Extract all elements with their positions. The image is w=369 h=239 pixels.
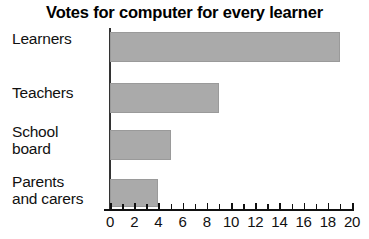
category-label-teachers-line-1: Teachers [12, 84, 115, 101]
bar-row [110, 130, 171, 160]
plot-area [110, 28, 352, 209]
x-axis-tick-major [110, 203, 112, 209]
x-axis-tick-minor [267, 204, 269, 209]
category-label-parents-and-carers-line-2: and carers [12, 190, 115, 207]
x-axis-tick-label: 20 [344, 213, 360, 230]
x-axis-tick-major [352, 203, 354, 209]
x-axis-tick-label: 6 [179, 213, 187, 230]
x-axis-tick-minor [195, 204, 197, 209]
x-axis-tick-major [279, 203, 281, 209]
x-axis-tick-label: 14 [271, 213, 287, 230]
bar-row [110, 32, 340, 62]
category-label-school-board: School board [12, 123, 115, 157]
x-axis-tick-minor [292, 204, 294, 209]
x-axis-tick-major [231, 203, 233, 209]
x-axis-tick-label: 8 [203, 213, 211, 230]
x-axis-tick-major [158, 203, 160, 209]
x-axis-tick-minor [146, 204, 148, 209]
bar-learners [110, 32, 340, 62]
x-axis-tick-label: 10 [223, 213, 239, 230]
bar-school-board [110, 130, 171, 160]
x-axis-tick-minor [171, 204, 173, 209]
x-axis-tick-major [255, 203, 257, 209]
bar-row [110, 83, 219, 113]
category-label-teachers: Teachers [12, 84, 115, 101]
x-axis-tick-minor [340, 204, 342, 209]
x-axis-tick-major [328, 203, 330, 209]
x-axis-tick-minor [219, 204, 221, 209]
category-label-learners-line-1: Learners [12, 30, 115, 47]
x-axis-tick-label: 18 [320, 213, 336, 230]
chart-title: Votes for computer for every learner [0, 2, 369, 22]
x-axis-tick-major [134, 203, 136, 209]
category-label-parents-and-carers-line-1: Parents [12, 173, 115, 190]
category-label-school-board-line-2: board [12, 140, 115, 157]
x-axis-tick-minor [243, 204, 245, 209]
category-label-school-board-line-1: School [12, 123, 115, 140]
x-axis-tick-label: 2 [130, 213, 138, 230]
category-label-learners: Learners [12, 30, 115, 47]
x-axis-tick-label: 16 [296, 213, 312, 230]
x-axis-tick-label: 0 [106, 213, 114, 230]
x-axis-tick-major [207, 203, 209, 209]
x-axis-tick-minor [122, 204, 124, 209]
category-label-parents-and-carers: Parents and carers [12, 173, 115, 207]
bar-teachers [110, 83, 219, 113]
x-axis-tick-label: 12 [247, 213, 263, 230]
bar-chart-figure: Votes for computer for every learner Lea… [0, 0, 369, 239]
x-axis-tick-major [183, 203, 185, 209]
x-axis-tick-major [304, 203, 306, 209]
x-axis-tick-label: 4 [154, 213, 162, 230]
x-axis-tick-minor [316, 204, 318, 209]
